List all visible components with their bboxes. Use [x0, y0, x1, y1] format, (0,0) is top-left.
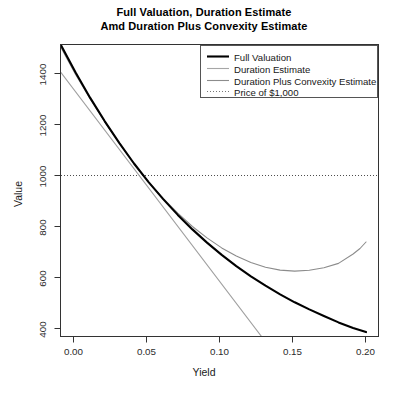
y-tick-label-5: 1400 [37, 57, 48, 91]
x-axis-ticks [74, 337, 366, 343]
chart-figure: Full Valuation, Duration Estimate Amd Du… [0, 0, 408, 402]
y-tick-label-1: 600 [37, 261, 48, 295]
x-tick-label-0: 0.00 [54, 346, 94, 357]
y-tick-label-4: 1200 [37, 108, 48, 142]
y-axis-ticks [55, 74, 61, 329]
legend-label-price-reference: Price of $1,000 [234, 87, 299, 98]
series-duration-estimate [61, 73, 262, 337]
x-tick-label-3: 0.15 [273, 346, 313, 357]
plot-canvas [0, 0, 408, 402]
x-tick-label-1: 0.05 [127, 346, 167, 357]
x-tick-label-2: 0.10 [200, 346, 240, 357]
y-tick-label-0: 400 [37, 312, 48, 346]
legend-label-full-valuation: Full Valuation [234, 52, 291, 63]
y-tick-label-3: 1000 [37, 159, 48, 193]
x-tick-label-4: 0.20 [346, 346, 386, 357]
legend-label-duration-plus-convexity: Duration Plus Convexity Estimate [234, 76, 376, 87]
legend-label-duration-estimate: Duration Estimate [234, 64, 310, 75]
y-tick-label-2: 800 [37, 210, 48, 244]
x-axis-title: Yield [0, 366, 408, 378]
cropped-footer-text [6, 394, 306, 401]
y-axis-title: Value [12, 164, 24, 224]
